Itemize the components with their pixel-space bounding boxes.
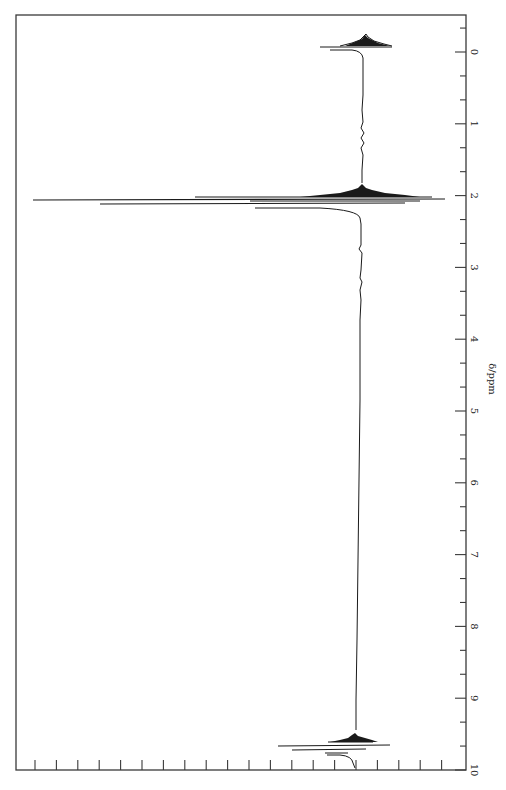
- multiplet-9ppm-fill: [330, 733, 378, 742]
- integral-step-2: [255, 208, 361, 224]
- intensity-axis-ticks: [35, 760, 442, 770]
- tick-label: 4: [469, 336, 480, 342]
- nmr-spectrum-chart: 012345678910 δ/ppm: [0, 0, 506, 790]
- integral-step-9: [327, 755, 355, 768]
- peak-9ppm-line-1: [278, 745, 390, 746]
- tick-label: 0: [469, 49, 480, 55]
- integral-step-0: [330, 50, 363, 62]
- multiplet-2ppm-fill: [300, 184, 420, 197]
- peak-2ppm-line-3: [100, 203, 405, 204]
- peak-2ppm-line-1: [33, 199, 445, 200]
- spectrum-trace: [33, 34, 445, 768]
- tick-label: 1: [469, 121, 480, 127]
- baseline-segment-2: [356, 224, 362, 730]
- tick-label: 7: [469, 551, 480, 557]
- plot-frame: [16, 15, 466, 770]
- ppm-axis-labels: 012345678910: [469, 49, 480, 777]
- ppm-axis-ticks: [455, 28, 466, 770]
- tick-label: 3: [469, 264, 480, 270]
- tick-label: 10: [469, 764, 480, 777]
- tick-label: 9: [469, 695, 480, 701]
- tick-label: 8: [469, 623, 480, 629]
- peak-9ppm-line-3: [292, 749, 366, 750]
- tick-label: 5: [469, 408, 480, 414]
- x-axis-title: δ/ppm: [487, 363, 498, 395]
- baseline-segment-1: [361, 62, 364, 183]
- tick-label: 6: [469, 480, 480, 486]
- tick-label: 2: [469, 192, 480, 198]
